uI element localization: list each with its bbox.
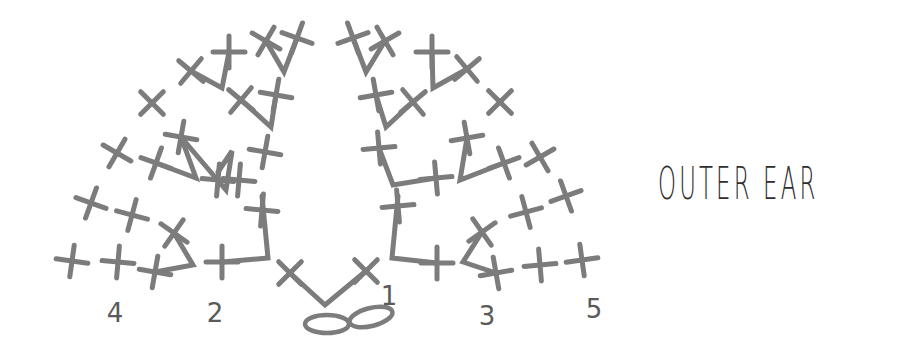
row-number-label: 4	[107, 298, 124, 328]
single-crochet-icon	[419, 161, 454, 196]
single-crochet-icon	[70, 182, 111, 223]
single-crochet-icon	[332, 17, 373, 58]
single-crochet-icon	[523, 248, 558, 283]
single-crochet-icon	[518, 135, 562, 179]
single-crochet-icon	[381, 189, 416, 224]
single-crochet-icon	[136, 253, 173, 290]
increase-v-stroke	[376, 95, 413, 127]
single-crochet-icon	[421, 247, 453, 279]
single-crochet-icon	[54, 243, 90, 279]
single-crochet-icon	[363, 19, 407, 63]
increase-v-stroke	[290, 271, 366, 305]
single-crochet-icon	[416, 36, 448, 68]
row-number-label: 1	[381, 281, 398, 311]
single-crochet-icon	[506, 192, 545, 231]
single-crochet-icon	[362, 131, 397, 166]
increase-v-stroke	[155, 233, 193, 272]
single-crochet-icon	[244, 19, 288, 63]
single-crochet-icon	[101, 245, 136, 280]
increase-v-stroke	[191, 52, 229, 88]
single-crochet-icon	[545, 175, 586, 216]
single-crochet-icon	[135, 142, 176, 183]
single-crochet-icon	[276, 17, 317, 58]
chain-loop-icon	[305, 315, 349, 333]
single-crochet-icon	[245, 193, 280, 228]
single-crochet-icon	[483, 142, 524, 183]
single-crochet-stitches	[54, 17, 600, 295]
single-crochet-icon	[444, 46, 489, 91]
row-number-label: 5	[586, 294, 603, 324]
single-crochet-icon	[152, 211, 197, 256]
increase-v-stroke	[156, 137, 196, 178]
increase-v-stroke	[463, 232, 496, 273]
single-crochet-icon	[257, 76, 294, 113]
single-crochet-icon	[357, 76, 394, 113]
increase-v-stroke	[432, 52, 467, 88]
single-crochet-icon	[168, 48, 213, 93]
single-crochet-icon	[564, 242, 600, 278]
single-crochet-icon	[448, 119, 485, 156]
row-number-label: 2	[207, 298, 224, 328]
single-crochet-icon	[112, 195, 151, 234]
single-crochet-icon	[246, 133, 283, 170]
single-crochet-icon	[95, 131, 139, 175]
single-crochet-icon	[477, 79, 522, 124]
single-crochet-icon	[460, 210, 505, 255]
single-crochet-icon	[129, 80, 174, 125]
single-crochet-icon	[206, 246, 238, 278]
row-number-label: 3	[479, 301, 496, 331]
single-crochet-icon	[477, 254, 514, 291]
chart-title: OUTER EAR	[658, 158, 818, 209]
row-numbers: 42135	[107, 281, 603, 331]
single-crochet-icon	[213, 36, 245, 68]
